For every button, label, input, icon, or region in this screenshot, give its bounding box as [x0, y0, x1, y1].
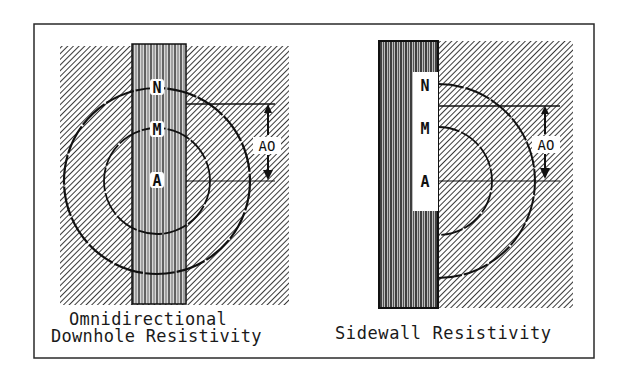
electrode-a-label-left: A [152, 172, 161, 190]
resistivity-diagram-figure: N M A AO N M A AO Omnidirectional Downho… [0, 0, 626, 379]
formation-hatch-right [438, 41, 573, 308]
sidewall-panel [379, 41, 573, 308]
ao-spacing-label-right: AO [538, 137, 555, 153]
electrode-m-label-right: M [420, 120, 429, 138]
electrode-n-label-left: N [152, 79, 161, 97]
ao-spacing-label-left: AO [259, 138, 276, 154]
omnidirectional-panel [60, 44, 289, 305]
electrode-n-label-right: N [420, 77, 429, 95]
sidewall-title: Sidewall Resistivity [335, 325, 552, 342]
omnidirectional-title-line2: Downhole Resistivity [51, 328, 262, 345]
electrode-m-label-left: M [152, 121, 161, 139]
electrode-a-label-right: A [420, 173, 429, 191]
